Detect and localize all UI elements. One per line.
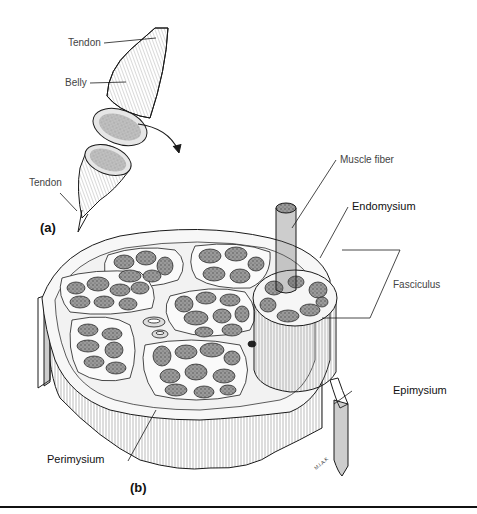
panel-b-letter: (b) [130, 480, 147, 495]
fasciculus-cylinder [253, 203, 337, 392]
muscle-structure-diagram: M.I.A.K Tendon Belly Tendon (a) Muscle f… [0, 0, 477, 514]
label-fasciculus: Fasciculus [393, 279, 440, 290]
label-epimysium: Epimysium [393, 384, 447, 396]
label-muscle-fiber: Muscle fiber [340, 154, 394, 165]
artist-signature: M.I.A.K [313, 455, 330, 471]
bottom-divider-rule [0, 506, 477, 508]
label-perimysium: Perimysium [47, 453, 104, 465]
label-belly: Belly [65, 77, 87, 88]
whole-muscle-illustration [78, 28, 181, 232]
label-endomysium: Endomysium [352, 200, 416, 212]
panel-a-letter: (a) [40, 220, 56, 235]
label-tendon-bottom: Tendon [29, 177, 62, 188]
label-tendon-top: Tendon [68, 37, 101, 48]
cross-section-illustration [38, 203, 348, 476]
